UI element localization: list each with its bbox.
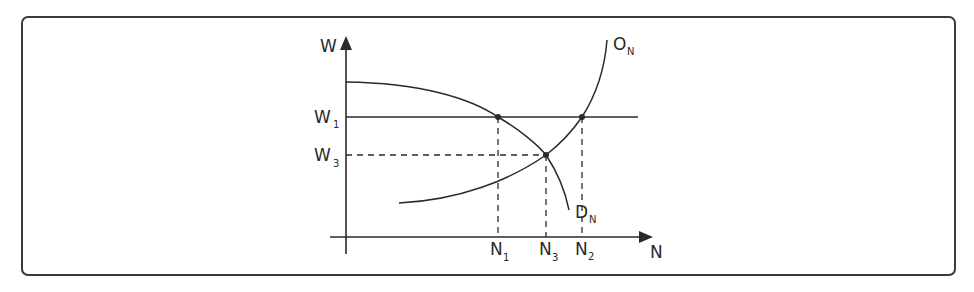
n1-label: N — [490, 239, 503, 259]
point-n2-w1 — [579, 114, 585, 120]
y-axis-arrow-icon — [340, 36, 352, 50]
w1-label: W — [314, 107, 331, 127]
w1-sub: 1 — [333, 119, 339, 130]
x-axis-label: N — [650, 242, 663, 262]
demand-curve-sub: N — [589, 214, 596, 225]
point-n1-w1 — [495, 114, 501, 120]
demand-curve-label: D — [575, 202, 588, 222]
supply-curve — [399, 40, 607, 203]
labor-market-diagram: W N W 1 W 3 N 1 N 3 N 2 O N D N — [0, 0, 974, 292]
n3-label: N — [539, 239, 552, 259]
n1-sub: 1 — [503, 252, 509, 263]
n3-sub: 3 — [552, 252, 558, 263]
y-axis-label: W — [320, 36, 337, 56]
dashed-guides — [346, 117, 582, 237]
supply-curve-sub: N — [627, 46, 634, 57]
w3-label: W — [314, 145, 331, 165]
point-n3-w3 — [543, 152, 549, 158]
n2-label: N — [575, 239, 588, 259]
n2-sub: 2 — [588, 251, 594, 262]
supply-curve-label: O — [613, 34, 626, 54]
w3-sub: 3 — [333, 158, 339, 169]
demand-curve — [346, 82, 569, 210]
